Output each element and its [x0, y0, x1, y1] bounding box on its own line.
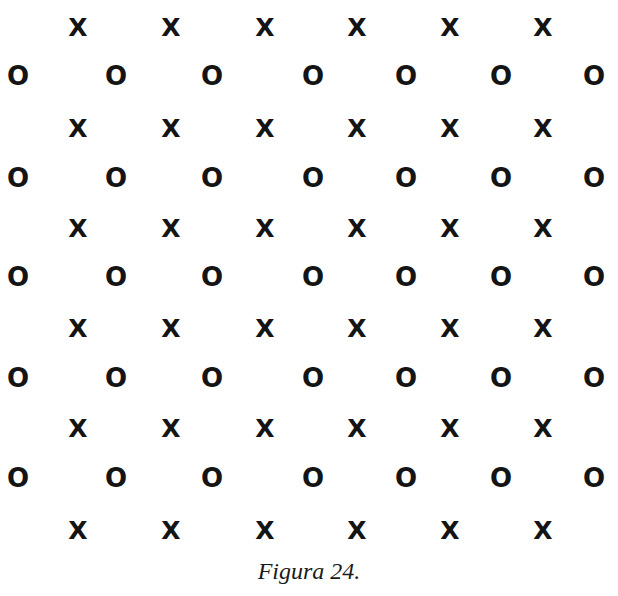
- o-mark: O: [105, 365, 127, 391]
- o-mark: O: [395, 63, 417, 89]
- x-mark: X: [161, 416, 180, 441]
- x-mark: X: [68, 15, 87, 40]
- o-mark: O: [7, 264, 29, 290]
- o-mark: O: [302, 465, 324, 491]
- x-mark: X: [161, 216, 180, 241]
- o-mark: O: [395, 165, 417, 191]
- x-mark: X: [68, 216, 87, 241]
- x-mark: X: [440, 518, 459, 543]
- o-mark: O: [395, 365, 417, 391]
- x-mark: X: [255, 416, 274, 441]
- x-mark: X: [440, 316, 459, 341]
- x-mark: X: [347, 15, 366, 40]
- o-mark: O: [105, 165, 127, 191]
- x-mark: X: [533, 116, 552, 141]
- o-mark: O: [302, 264, 324, 290]
- x-mark: X: [347, 116, 366, 141]
- x-mark: X: [68, 116, 87, 141]
- x-mark: X: [347, 416, 366, 441]
- x-mark: X: [533, 518, 552, 543]
- x-mark: X: [161, 518, 180, 543]
- o-mark: O: [105, 264, 127, 290]
- x-mark: X: [440, 15, 459, 40]
- x-mark: X: [161, 116, 180, 141]
- o-mark: O: [583, 165, 605, 191]
- o-mark: O: [7, 165, 29, 191]
- o-mark: O: [201, 63, 223, 89]
- o-mark: O: [490, 365, 512, 391]
- x-mark: X: [533, 15, 552, 40]
- o-mark: O: [395, 465, 417, 491]
- x-mark: X: [68, 316, 87, 341]
- o-mark: O: [105, 465, 127, 491]
- x-mark: X: [440, 116, 459, 141]
- o-mark: O: [201, 365, 223, 391]
- x-mark: X: [255, 216, 274, 241]
- o-mark: O: [201, 465, 223, 491]
- x-mark: X: [255, 116, 274, 141]
- dot-pattern-figure: XXXXXXXXXXXXXXXXXXXXXXXXXXXXXXXXXXXXOOOO…: [0, 0, 618, 596]
- o-mark: O: [490, 63, 512, 89]
- o-mark: O: [302, 365, 324, 391]
- o-mark: O: [7, 465, 29, 491]
- o-mark: O: [302, 63, 324, 89]
- figure-caption: Figura 24.: [0, 558, 618, 585]
- o-mark: O: [583, 365, 605, 391]
- o-mark: O: [490, 465, 512, 491]
- x-mark: X: [68, 518, 87, 543]
- x-mark: X: [440, 416, 459, 441]
- x-mark: X: [255, 15, 274, 40]
- x-mark: X: [68, 416, 87, 441]
- x-mark: X: [533, 216, 552, 241]
- x-mark: X: [440, 216, 459, 241]
- o-mark: O: [583, 465, 605, 491]
- o-mark: O: [583, 264, 605, 290]
- x-mark: X: [255, 518, 274, 543]
- o-mark: O: [201, 165, 223, 191]
- o-mark: O: [201, 264, 223, 290]
- o-mark: O: [7, 63, 29, 89]
- o-mark: O: [583, 63, 605, 89]
- x-mark: X: [255, 316, 274, 341]
- o-mark: O: [7, 365, 29, 391]
- x-mark: X: [347, 518, 366, 543]
- o-mark: O: [105, 63, 127, 89]
- o-mark: O: [490, 264, 512, 290]
- x-mark: X: [533, 416, 552, 441]
- o-mark: O: [302, 165, 324, 191]
- x-mark: X: [347, 316, 366, 341]
- x-mark: X: [161, 15, 180, 40]
- x-mark: X: [161, 316, 180, 341]
- x-mark: X: [533, 316, 552, 341]
- o-mark: O: [490, 165, 512, 191]
- x-mark: X: [347, 216, 366, 241]
- o-mark: O: [395, 264, 417, 290]
